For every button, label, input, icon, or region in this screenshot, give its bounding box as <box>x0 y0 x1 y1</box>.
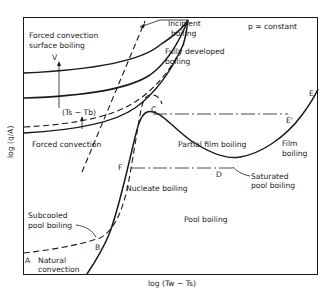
point-B: B <box>95 243 100 252</box>
label-film-1: Film <box>282 139 297 148</box>
point-E-prime: E' <box>286 116 293 125</box>
label-forced-convection: Forced convection <box>32 140 101 149</box>
label-subcooling: (Ts − Tb) <box>62 108 96 117</box>
incipient-arrow <box>140 23 145 28</box>
label-film-2: boiling <box>282 149 308 158</box>
label-natural-1: Natural <box>38 256 66 265</box>
boiling-curve-diagram: Forced convection surface boiling V (Ts … <box>0 0 330 294</box>
velocity-arrowhead <box>57 61 61 66</box>
point-F: F <box>118 163 122 172</box>
incipient-boiling-line <box>82 21 145 172</box>
label-natural-2: convection <box>38 265 80 274</box>
label-fully-developed-1: Fully developed <box>165 47 225 56</box>
label-saturated-2: pool boiling <box>251 181 295 190</box>
subcooled-leader <box>76 225 96 237</box>
label-incipient-2: boiling <box>171 29 197 38</box>
label-p-constant: p = constant <box>248 22 297 31</box>
label-subcooled-2: pool boiling <box>28 221 72 230</box>
label-saturated-1: Saturated <box>251 172 289 181</box>
label-forced-convection-surface-1: Forced convection <box>29 31 98 40</box>
label-fully-developed-2: boiling <box>165 57 191 66</box>
label-forced-convection-surface-2: surface boiling <box>29 41 85 50</box>
x-axis-label: log (Tw − Ts) <box>148 279 196 288</box>
point-C: C <box>151 105 156 114</box>
label-subcooled-1: Subcooled <box>28 211 68 220</box>
label-velocity: V <box>52 53 58 62</box>
label-incipient-1: Incipient <box>168 19 201 28</box>
point-A: A <box>25 256 31 265</box>
point-E: E <box>309 89 314 98</box>
label-pool-boiling: Pool boiling <box>184 215 228 224</box>
saturated-leader <box>233 167 250 176</box>
label-partial-film: Partial film boiling <box>178 140 247 149</box>
point-D: D <box>216 170 222 179</box>
y-axis-label: log (q/A) <box>6 125 15 158</box>
label-nucleate: Nucleate boiling <box>126 184 188 193</box>
